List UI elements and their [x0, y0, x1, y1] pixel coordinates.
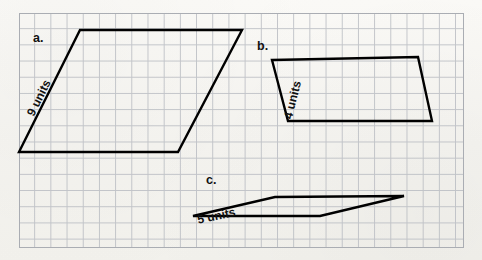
shapes-layer [0, 0, 482, 260]
shape-label-c: c. [206, 173, 216, 187]
shape-label-b: b. [257, 39, 268, 53]
parallelogram-a [19, 30, 242, 152]
shape-label-a: a. [33, 31, 43, 45]
worksheet-page: a. b. c. 9 units 4 units 5 units [0, 0, 482, 260]
